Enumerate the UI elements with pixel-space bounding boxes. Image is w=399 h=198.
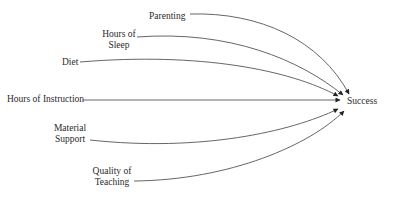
node-label-line: Sleep [100, 40, 138, 51]
node-quality-of-teaching: Quality of Teaching [91, 166, 133, 188]
edge-material-support-to-success [90, 109, 338, 144]
edge-hours-of-sleep-to-success [137, 36, 343, 95]
causal-diagram: Parenting Hours of Sleep Diet Hours of I… [0, 0, 399, 198]
node-label-line: Teaching [91, 177, 133, 188]
node-label-line: Hours of [100, 29, 138, 40]
edge-quality-of-teaching-to-success [134, 111, 344, 181]
node-material-support: Material Support [52, 123, 88, 145]
node-success: Success [347, 96, 377, 107]
edge-diet-to-success [80, 59, 338, 96]
node-label-line: Support [52, 134, 88, 145]
node-label-line: Parenting [149, 11, 185, 22]
node-label-line: Hours of Instruction [7, 94, 84, 105]
node-hours-of-sleep: Hours of Sleep [100, 29, 138, 51]
node-label-line: Diet [62, 57, 78, 68]
node-hours-of-instruction: Hours of Instruction [7, 94, 84, 105]
node-label-line: Material [52, 123, 88, 134]
node-label-line: Quality of [91, 166, 133, 177]
node-label-line: Success [347, 96, 377, 107]
node-parenting: Parenting [149, 11, 185, 22]
node-diet: Diet [62, 57, 78, 68]
